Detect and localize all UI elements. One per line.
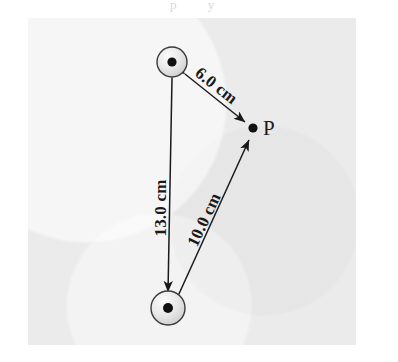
sphere-top-center-dot — [167, 57, 176, 66]
physics-diagram: 13.0 cm 6.0 cm 10.0 cm — [0, 0, 398, 362]
dimension-label-13cm: 13.0 cm — [151, 179, 170, 236]
sphere-top — [157, 47, 187, 77]
dimension-label-10cm: 10.0 cm — [183, 190, 224, 250]
sphere-bottom — [151, 291, 185, 325]
measurement-10cm: 10.0 cm — [178, 140, 249, 296]
point-p: P — [248, 116, 274, 140]
sphere-bottom-center-dot — [163, 303, 173, 313]
measurement-13cm: 13.0 cm — [151, 78, 172, 292]
point-p-dot — [248, 123, 257, 132]
measurement-6cm: 6.0 cm — [185, 63, 245, 122]
figure-root: p y 13.0 cm 6.0 cm — [0, 0, 398, 362]
point-p-label: P — [263, 116, 275, 140]
